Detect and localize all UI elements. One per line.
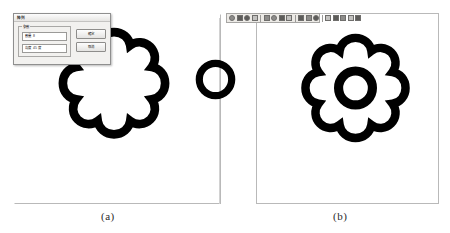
circle-icon[interactable] [313,15,319,21]
grid-icon[interactable] [264,15,270,21]
parameter-group-legend: 參數 [22,25,30,30]
array-dialog[interactable]: 陣列 參數 數量 8 角度 45 度 確定 取消 [13,13,111,65]
dialog-title: 陣列 [17,14,25,22]
cancel-button[interactable]: 取消 [76,42,106,52]
confirm-button[interactable]: 確定 [76,29,106,39]
toolbar-separator [295,15,296,22]
trim-icon[interactable] [333,15,339,21]
dialog-button-column: 確定 取消 [76,26,106,63]
zoom-icon[interactable] [244,15,250,21]
settings-icon[interactable] [355,15,361,21]
toolbar-separator [322,15,323,22]
cursor-icon[interactable] [229,15,235,21]
count-value[interactable]: 8 [33,32,35,41]
dialog-title-bar[interactable]: 陣列 [14,14,110,22]
layer-icon[interactable] [252,15,258,21]
ring-shape-a[interactable] [193,57,238,102]
snap-icon[interactable] [271,15,277,21]
measure-icon[interactable] [279,15,285,21]
toolbar-separator [260,15,261,22]
field-row-count[interactable]: 數量 8 [22,32,67,41]
gear-inner-ring [339,71,373,105]
angle-unit: 度 [38,44,41,53]
caption-panel-b: (b) [333,210,347,222]
count-label: 數量 [25,32,31,41]
construction-line [219,18,220,204]
drawing-toolbar[interactable] [226,13,320,23]
dialog-body: 參數 數量 8 角度 45 度 確定 取消 [14,22,110,63]
dimension-icon[interactable] [286,15,292,21]
line-icon[interactable] [298,15,304,21]
array-icon[interactable] [348,15,354,21]
angle-label: 角度 [25,44,31,53]
polygon-icon[interactable] [325,15,331,21]
parameter-group: 參數 數量 8 角度 45 度 [18,26,71,57]
gear-outline-b[interactable] [285,28,426,169]
pan-icon[interactable] [237,15,243,21]
angle-value[interactable]: 45 [33,44,37,53]
caption-panel-a: (a) [101,210,115,222]
mirror-icon[interactable] [340,15,346,21]
field-row-angle[interactable]: 角度 45 度 [22,44,67,53]
figure-root: 陣列 參數 數量 8 角度 45 度 確定 取消 (a [0,0,450,233]
arc-icon[interactable] [306,15,312,21]
